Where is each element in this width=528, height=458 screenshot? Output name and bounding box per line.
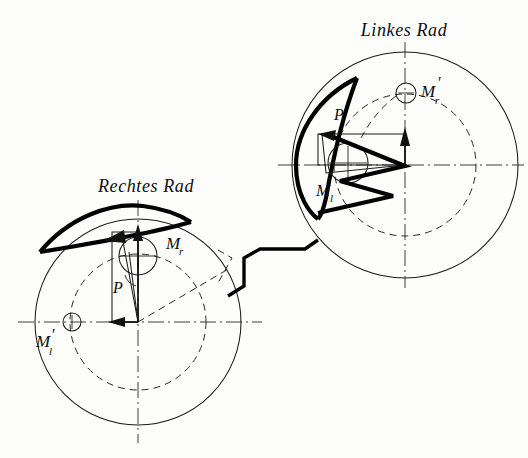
left-wheel-ghost-label-main: M (420, 82, 436, 101)
right-wheel-ghost-label-prime: ' (51, 326, 55, 343)
wheel-force-diagram: Rechtes Rad M r M ' l P (0, 0, 528, 458)
right-wheel-force-label: P (112, 279, 123, 296)
right-wheel-resultant-line (122, 236, 138, 322)
left-wheel-title: Linkes Rad (360, 20, 448, 40)
left-wheel-group: Linkes Rad M ' r M l P (278, 20, 524, 288)
left-wheel-hub-label-sub: l (330, 192, 333, 204)
left-wheel-ghost-label: M ' r (420, 74, 441, 106)
right-wheel-group: Rechtes Rad M r M ' l P (18, 176, 262, 443)
right-wheel-ghost-label-sub: l (49, 345, 52, 357)
left-wheel-force-label: P (333, 106, 344, 123)
right-wheel-hub-label-sub: r (179, 245, 184, 257)
left-wheel-hub-label-main: M (315, 181, 331, 200)
left-wheel-ghost-label-sub: r (435, 94, 440, 106)
right-wheel-resultant-line-2 (129, 252, 138, 322)
right-wheel-hub-label: M r (165, 234, 184, 257)
connector-zigzag-path (228, 240, 318, 296)
connector-group (228, 240, 318, 296)
right-wheel-dashed-radial (138, 268, 230, 322)
left-wheel-vertical-arrowhead (400, 127, 410, 146)
right-wheel-ghost-label: M ' l (35, 326, 55, 357)
figure-root: Rechtes Rad M r M ' l P (0, 0, 528, 458)
right-wheel-horizontal-arrowhead (108, 317, 125, 327)
right-wheel-force-rectangle (112, 232, 138, 322)
left-wheel-ghost-leader (360, 96, 396, 140)
left-wheel-ghost-label-prime: ' (437, 74, 441, 91)
left-wheel-left-arrowhead (318, 130, 336, 141)
right-wheel-title: Rechtes Rad (97, 176, 194, 196)
